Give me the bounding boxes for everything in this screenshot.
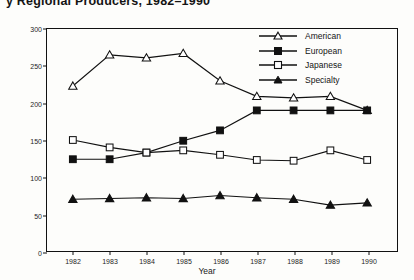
data-point-open-square <box>217 151 224 158</box>
x-tick-mark <box>258 251 259 255</box>
x-tick-label: 1982 <box>65 258 81 265</box>
data-point-open-square <box>180 147 187 154</box>
series-specialty <box>69 191 372 208</box>
data-point-open-triangle <box>179 49 187 56</box>
y-tick-label: 200 <box>30 100 42 107</box>
data-point-filled-square <box>180 137 187 144</box>
x-tick-label: 1989 <box>324 258 340 265</box>
y-tick-label: 100 <box>30 175 42 182</box>
y-tick-label: 250 <box>30 63 42 70</box>
legend-key-open-square-icon <box>258 59 298 71</box>
legend-label-american: American <box>305 31 341 41</box>
legend-label-japanese: Japanese <box>305 60 342 70</box>
x-tick-mark <box>147 251 148 255</box>
x-tick-mark <box>295 251 296 255</box>
x-tick-mark <box>369 251 370 255</box>
data-point-filled-triangle <box>216 191 224 198</box>
legend-label-specialty: Specialty <box>305 75 340 85</box>
data-point-open-square <box>364 157 371 164</box>
y-tick-mark <box>43 253 47 254</box>
x-tick-label: 1985 <box>176 258 192 265</box>
y-tick-label: 300 <box>30 26 42 33</box>
data-point-open-square <box>327 147 334 154</box>
legend-key-open-triangle-icon <box>258 30 298 42</box>
data-point-filled-square <box>253 107 260 114</box>
x-tick-label: 1988 <box>287 258 303 265</box>
x-tick-mark <box>184 251 185 255</box>
data-point-open-square <box>253 157 260 164</box>
x-axis-label: Year <box>0 266 414 276</box>
x-tick-mark <box>110 251 111 255</box>
data-series-layer <box>47 29 397 251</box>
data-point-open-square <box>290 157 297 164</box>
data-point-filled-square <box>327 107 334 114</box>
data-point-filled-square <box>69 156 76 163</box>
x-tick-label: 1986 <box>213 258 229 265</box>
x-tick-mark <box>73 251 74 255</box>
legend-key-filled-triangle-icon <box>258 74 298 86</box>
x-tick-label: 1983 <box>102 258 118 265</box>
data-point-open-square <box>143 149 150 156</box>
x-tick-mark <box>332 251 333 255</box>
y-tick-label: 50 <box>34 212 42 219</box>
legend-label-european: European <box>305 46 342 56</box>
legend-item-specialty: Specialty <box>258 74 342 86</box>
legend-item-japanese: Japanese <box>258 59 342 71</box>
data-point-open-triangle <box>216 77 224 84</box>
y-tick-label: 0 <box>38 250 42 257</box>
y-tick-label: 150 <box>30 138 42 145</box>
data-point-filled-square <box>217 127 224 134</box>
legend-key-filled-square-icon <box>258 45 298 57</box>
legend-item-european: European <box>258 45 342 57</box>
x-tick-label: 1990 <box>361 258 377 265</box>
series-japanese <box>69 137 370 164</box>
chart-legend: American European Japanese Specialty <box>258 30 342 86</box>
data-point-filled-square <box>106 156 113 163</box>
chart-title: y Regional Producers, 1982–1990 <box>6 0 210 8</box>
x-tick-label: 1984 <box>139 258 155 265</box>
line-chart: y Regional Producers, 1982–1990 Producti… <box>0 0 414 280</box>
data-point-open-square <box>106 144 113 151</box>
x-tick-label: 1987 <box>250 258 266 265</box>
data-point-filled-triangle <box>363 199 371 206</box>
plot-area: 050100150200250300 198219831984198519861… <box>46 28 398 252</box>
data-point-filled-square <box>290 107 297 114</box>
data-point-filled-square <box>364 107 371 114</box>
x-tick-mark <box>221 251 222 255</box>
legend-item-american: American <box>258 30 342 42</box>
data-point-open-square <box>69 137 76 144</box>
data-point-open-triangle <box>105 51 113 58</box>
